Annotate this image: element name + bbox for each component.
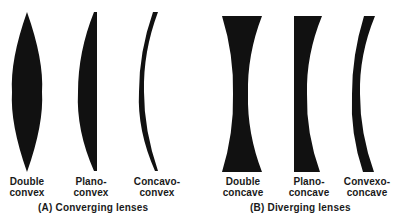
plano-convex-lens (78, 12, 97, 171)
label-line1: Double (218, 176, 268, 187)
convexo-concave-lens (352, 16, 375, 172)
label-line2: convex (128, 187, 186, 198)
concavo-convex-lens (139, 12, 158, 171)
label-line1: Double (4, 176, 50, 187)
label-line2: convex (68, 187, 114, 198)
label-double-concave: Double concave (218, 176, 268, 198)
label-line1: Plano- (68, 176, 114, 187)
double-concave-lens (222, 16, 262, 172)
label-line1: Convexo- (340, 176, 394, 187)
label-line1: Concavo- (128, 176, 186, 187)
label-double-convex: Double convex (4, 176, 50, 198)
label-plano-concave: Plano- concave (284, 176, 334, 198)
label-line2: concave (218, 187, 268, 198)
label-line1: Plano- (284, 176, 334, 187)
label-concavo-convex: Concavo- convex (128, 176, 186, 198)
caption-diverging-lenses: (B) Diverging lenses (250, 202, 350, 213)
label-convexo-concave: Convexo- concave (340, 176, 394, 198)
double-convex-lens (12, 12, 42, 172)
plano-concave-lens (294, 16, 322, 172)
label-line2: convex (4, 187, 50, 198)
label-line2: concave (284, 187, 334, 198)
label-line2: concave (340, 187, 394, 198)
label-plano-convex: Plano- convex (68, 176, 114, 198)
caption-converging-lenses: (A) Converging lenses (38, 202, 140, 213)
lens-shapes (0, 0, 394, 218)
